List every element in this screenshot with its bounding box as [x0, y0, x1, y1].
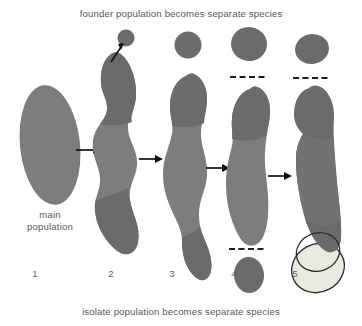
stage-number-5: 5 — [287, 268, 303, 279]
caption-founder-speciation: founder population becomes separate spec… — [0, 8, 362, 19]
stage-4-founder-species-blob — [229, 25, 269, 64]
stage-3-upper-dark-segment — [170, 74, 207, 127]
stage-1-main-population-blob — [14, 82, 86, 208]
speciation-diagram: founder population becomes separate spec… — [0, 0, 362, 326]
main-population-label: main population — [18, 209, 82, 232]
flow-arrow-3-to-4 — [206, 164, 230, 172]
stage-5-founder-species-blob — [293, 31, 332, 66]
speciation-diagram-canvas — [0, 0, 362, 326]
stage-number-2: 2 — [103, 268, 119, 279]
stage-1-group — [14, 82, 86, 208]
stage-number-3: 3 — [164, 268, 180, 279]
caption-isolate-speciation: isolate population becomes separate spec… — [0, 306, 362, 317]
stage-4-upper-dark-segment — [232, 87, 270, 141]
stage-4-group — [226, 25, 270, 294]
main-population-label-line2: population — [27, 221, 73, 232]
stage-3-founder-species-circle — [175, 32, 202, 59]
main-population-label-line1: main — [39, 209, 60, 220]
stage-2-group — [93, 30, 139, 255]
stage-5-group — [283, 31, 353, 302]
stage-3-group — [163, 32, 211, 281]
stage-2-founder-source-segment — [100, 52, 136, 125]
stage-number-1: 1 — [27, 268, 43, 279]
flow-arrow-4-to-5 — [268, 172, 292, 180]
stage-number-4: 4 — [226, 268, 242, 279]
flow-arrow-2-to-3 — [139, 155, 163, 163]
